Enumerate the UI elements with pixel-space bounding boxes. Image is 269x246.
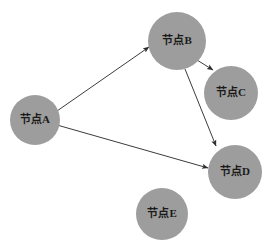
edge-a-to-b[interactable] <box>57 47 149 111</box>
node-label-b: 节点B <box>162 33 192 46</box>
nodes-layer: 节点A节点B节点C节点D节点E <box>10 12 262 240</box>
node-label-a: 节点A <box>20 112 51 125</box>
diagram-canvas: 节点A节点B节点C节点D节点E <box>0 0 269 246</box>
node-d[interactable]: 节点D <box>208 145 262 199</box>
edge-b-to-c[interactable] <box>197 60 213 70</box>
node-e[interactable]: 节点E <box>136 188 188 240</box>
node-c[interactable]: 节点C <box>204 66 258 120</box>
edge-a-to-d[interactable] <box>57 125 208 168</box>
graph-svg: 节点A节点B节点C节点D节点E <box>0 0 269 246</box>
node-label-d: 节点D <box>220 164 251 177</box>
node-b[interactable]: 节点B <box>148 12 206 70</box>
node-a[interactable]: 节点A <box>10 95 60 145</box>
node-label-c: 节点C <box>216 85 247 98</box>
node-label-e: 节点E <box>147 206 177 219</box>
